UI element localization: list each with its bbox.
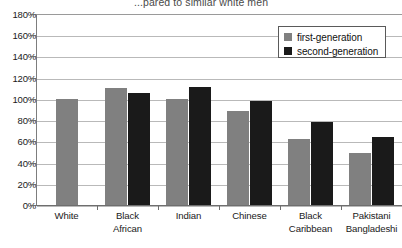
bar-group: [219, 14, 280, 205]
chart-title: ...pared to similar white men: [0, 0, 402, 8]
x-axis-label-line: Caribbean: [280, 223, 341, 236]
x-axis-category-label: BlackCaribbean: [280, 210, 341, 235]
bar: [128, 93, 150, 205]
bar-group: [158, 14, 219, 205]
y-axis: 0%20%40%60%80%100%120%140%160%180%: [0, 0, 36, 248]
x-axis-label-line: Chinese: [219, 210, 280, 223]
legend-label: second-generation: [297, 46, 378, 57]
bar: [105, 88, 127, 205]
bar: [311, 122, 333, 205]
legend-label: first-generation: [297, 32, 362, 43]
bar-group: [36, 14, 97, 205]
x-axis-label-line: African: [97, 223, 158, 236]
bar: [56, 99, 78, 205]
legend-item-second-generation: second-generation: [284, 44, 381, 58]
legend-swatch-icon: [284, 47, 292, 55]
bar: [166, 99, 188, 205]
bar: [189, 87, 211, 205]
bar-chart: ...pared to similar white men 0%20%40%60…: [0, 0, 402, 248]
bar: [288, 139, 310, 205]
bar: [250, 101, 272, 205]
x-axis-label-line: Bangladeshi: [341, 223, 402, 236]
bar: [372, 137, 394, 205]
x-axis-category-label: PakistaniBangladeshi: [341, 210, 402, 235]
x-axis-label-line: Black: [97, 210, 158, 223]
bar: [227, 111, 249, 205]
x-axis-label-line: Black: [280, 210, 341, 223]
x-axis-category-label: Indian: [158, 210, 219, 223]
x-axis-label-line: Pakistani: [341, 210, 402, 223]
bar: [349, 153, 371, 205]
x-axis-category-label: Chinese: [219, 210, 280, 223]
x-axis-labels: WhiteBlackAfricanIndianChineseBlackCarib…: [36, 210, 402, 248]
x-axis-category-label: White: [36, 210, 97, 223]
x-axis-label-line: Indian: [158, 210, 219, 223]
bar-group: [97, 14, 158, 205]
x-axis-label-line: White: [36, 210, 97, 223]
legend: first-generation second-generation: [278, 26, 386, 58]
legend-item-first-generation: first-generation: [284, 30, 381, 44]
x-axis-category-label: BlackAfrican: [97, 210, 158, 235]
legend-swatch-icon: [284, 33, 292, 41]
